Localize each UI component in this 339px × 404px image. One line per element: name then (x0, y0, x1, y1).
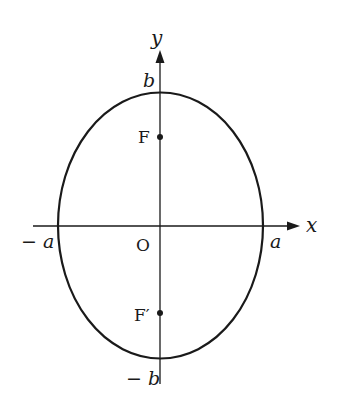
focus-f-prime-label: F′ (134, 305, 150, 325)
vertex-top-label: b (143, 69, 155, 91)
y-axis-label: y (150, 26, 163, 50)
focus-f-point (157, 134, 163, 140)
vertex-right-label: a (270, 230, 281, 252)
y-axis-arrow-icon (156, 50, 165, 63)
x-axis-arrow-icon (287, 222, 300, 231)
ellipse-diagram: y x O b − b − a a F F′ (0, 0, 339, 404)
focus-f-label: F (138, 127, 150, 147)
origin-label: O (136, 235, 150, 255)
focus-f-prime-point (157, 310, 163, 316)
vertex-bottom-label: − b (126, 367, 160, 389)
x-axis-label: x (306, 213, 317, 237)
vertex-left-label: − a (21, 230, 54, 252)
